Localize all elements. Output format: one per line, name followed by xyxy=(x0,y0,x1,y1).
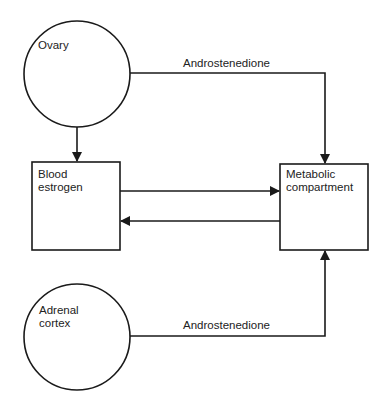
adrenal-cortex-node xyxy=(24,284,130,390)
edge-label-top-androstenedione: Androstenedione xyxy=(183,57,270,70)
blood-estrogen-label: Blood estrogen xyxy=(38,168,83,194)
adrenal-cortex-label: Adrenal cortex xyxy=(39,304,79,330)
edge-ovary-to-metabolic xyxy=(130,73,325,163)
metabolic-compartment-label: Metabolic compartment xyxy=(286,168,353,194)
ovary-label: Ovary xyxy=(38,39,69,52)
ovary-node xyxy=(24,21,130,127)
edge-label-bottom-androstenedione: Androstenedione xyxy=(183,319,270,332)
